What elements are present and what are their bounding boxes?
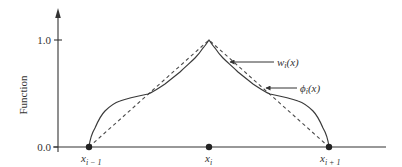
node-x-i [206,144,212,150]
y-axis-label: Function [17,75,29,115]
basis-function-chart: 1.0 0.0 Function xi − 1 xi xi + 1 wi(x) … [0,0,402,167]
w-annotation-label: wi(x) [277,56,299,70]
y-tick-label-bottom: 0.0 [37,141,51,153]
phi-annotation-label: ϕi(x) [300,82,320,96]
y-axis-arrow-icon [55,8,61,18]
node-x-i-minus-1 [86,144,92,150]
x-label-right: xi + 1 [319,152,341,167]
y-tick-label-top: 1.0 [37,34,51,46]
node-x-i-plus-1 [326,144,332,150]
x-label-left: xi − 1 [80,152,102,167]
x-label-mid: xi [204,152,212,167]
